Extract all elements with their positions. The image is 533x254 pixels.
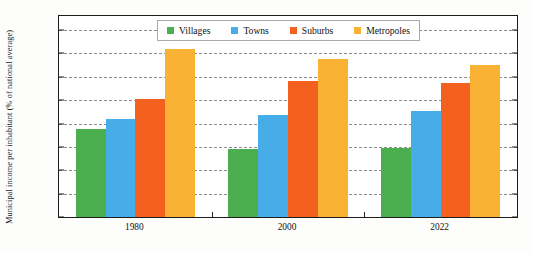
bar-group (381, 16, 500, 217)
bar-metropoles-2000 (318, 59, 348, 217)
bar-series-container (59, 16, 517, 217)
legend-swatch-icon (290, 27, 297, 34)
bar-villages-1980 (76, 129, 106, 217)
x-axis-tick-label: 2022 (395, 222, 485, 232)
bar-metropoles-2022 (470, 65, 500, 217)
legend-label: Towns (243, 25, 268, 36)
bar-suburbs-2022 (441, 83, 471, 217)
plot-area: 0%20%40%60%80%100%120%140%160% (58, 15, 518, 218)
legend-item-suburbs[interactable]: Suburbs (290, 25, 333, 36)
legend-swatch-icon (167, 27, 174, 34)
y-axis-title: Municipal income per inhabitant (% of na… (0, 0, 18, 254)
legend-swatch-icon (231, 27, 238, 34)
legend-item-villages[interactable]: Villages (167, 25, 210, 36)
bar-towns-2000 (258, 115, 288, 217)
chart-figure: Municipal income per inhabitant (% of na… (0, 0, 533, 254)
x-axis-tick-label: 1980 (89, 222, 179, 232)
legend-label: Metropoles (366, 25, 410, 36)
bar-villages-2000 (228, 149, 258, 217)
legend-label: Suburbs (302, 25, 333, 36)
bar-suburbs-1980 (135, 99, 165, 217)
bar-group (76, 16, 195, 217)
chart-legend: VillagesTownsSuburbsMetropoles (157, 20, 420, 41)
bar-suburbs-2000 (288, 81, 318, 217)
legend-swatch-icon (354, 27, 361, 34)
legend-item-metropoles[interactable]: Metropoles (354, 25, 410, 36)
bar-villages-2022 (381, 148, 411, 217)
legend-item-towns[interactable]: Towns (231, 25, 268, 36)
bar-towns-1980 (106, 119, 136, 217)
bar-towns-2022 (411, 111, 441, 217)
bar-group (228, 16, 347, 217)
legend-label: Villages (179, 25, 210, 36)
x-axis-tick-label: 2000 (242, 222, 332, 232)
bar-metropoles-1980 (165, 49, 195, 217)
